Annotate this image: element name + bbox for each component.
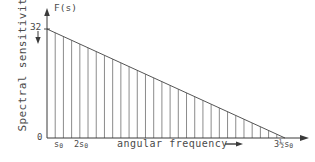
x-tick-label-2s0-sub: 0 (84, 142, 88, 150)
x-tick-label-end-sub: 0 (289, 142, 293, 150)
y-axis-symbol-label: F(s) (54, 3, 77, 13)
x-tick-label-2s0-base: 2s (74, 139, 84, 149)
origin-tick-label: 0 (37, 133, 42, 142)
y-tick-label-32: 32 (30, 22, 41, 32)
x-tick-label-s0: s0 (54, 140, 63, 150)
x-tick-label-end: 3½s0 (274, 140, 293, 150)
x-tick-label-2s0: 2s0 (74, 140, 88, 150)
x-tick-label-end-base: 3½s (274, 139, 289, 149)
y-axis-title: Spectral sensitivity (17, 0, 28, 132)
x-axis-title: angular frequency (117, 139, 228, 149)
x-tick-label-s0-sub: 0 (59, 142, 63, 150)
